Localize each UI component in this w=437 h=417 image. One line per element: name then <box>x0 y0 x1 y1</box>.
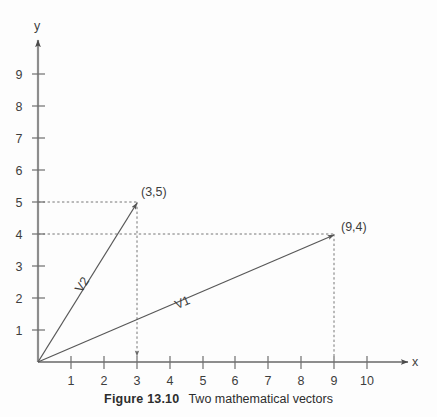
y-tick-label-4: 4 <box>12 229 26 242</box>
vector-plot <box>0 0 437 417</box>
x-tick-label-6: 6 <box>225 375 245 388</box>
y-tick-label-5: 5 <box>12 197 26 210</box>
point-label-3-5: (3,5) <box>141 186 167 199</box>
y-tick-label-2: 2 <box>12 293 26 306</box>
x-tick-label-3: 3 <box>127 375 147 388</box>
y-tick-label-6: 6 <box>12 165 26 178</box>
x-tick-label-7: 7 <box>258 375 278 388</box>
figure-caption-number: Figure 13.10 <box>104 392 179 406</box>
x-tick-label-9: 9 <box>324 375 344 388</box>
x-tick-label-4: 4 <box>160 375 180 388</box>
figure-caption-text: Two mathematical vectors <box>188 392 333 406</box>
x-axis <box>38 356 408 369</box>
y-tick-label-3: 3 <box>12 261 26 274</box>
x-axis-label: x <box>412 356 418 369</box>
x-tick-label-1: 1 <box>61 375 81 388</box>
point-label-9-4: (9,4) <box>341 221 367 234</box>
y-axis-label: y <box>34 20 40 33</box>
x-tick-label-2: 2 <box>94 375 114 388</box>
x-tick-label-8: 8 <box>291 375 311 388</box>
y-tick-label-9: 9 <box>12 69 26 82</box>
y-axis <box>32 40 45 362</box>
x-tick-label-10: 10 <box>356 375 378 388</box>
x-tick-label-5: 5 <box>193 375 213 388</box>
figure-container: y x 1 2 3 4 5 6 7 8 9 1 2 3 4 5 6 7 8 9 … <box>0 0 437 417</box>
figure-caption: Figure 13.10Two mathematical vectors <box>0 392 437 406</box>
y-tick-label-1: 1 <box>12 325 26 338</box>
y-tick-label-8: 8 <box>12 101 26 114</box>
y-tick-label-7: 7 <box>12 133 26 146</box>
